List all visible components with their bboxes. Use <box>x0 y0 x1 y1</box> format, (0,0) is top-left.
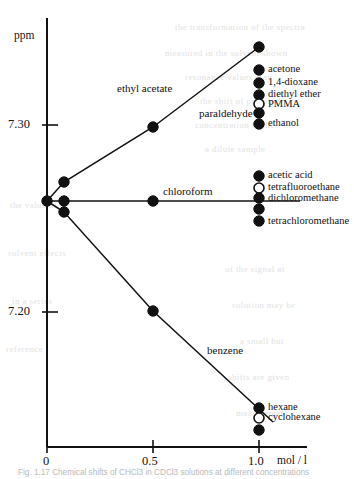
series-label-ethyl-acetate: ethyl acetate <box>117 83 172 94</box>
point-label-acetone: acetone <box>268 64 300 75</box>
x-tick-label-1-0: 1.0 <box>248 455 264 468</box>
point-label-ethanol: ethanol <box>268 118 299 129</box>
x-tick-label-0-5: 0.5 <box>142 455 158 468</box>
endpoint-marker-dichloromethane <box>254 193 264 203</box>
y-tick-label-7-20: 7.20 <box>8 305 30 318</box>
data-point-chloroform <box>59 196 69 206</box>
endpoint-marker-paraldehyde <box>254 108 264 118</box>
x-axis-unit-label: mol / l <box>277 455 307 467</box>
series-label-benzene: benzene <box>207 345 243 356</box>
endpoint-marker-ethanol <box>254 119 264 129</box>
data-point-benzene <box>59 207 69 217</box>
point-label-acetic-acid: acetic acid <box>268 170 313 181</box>
endpoint-marker-tetrafluoroethane <box>254 183 264 193</box>
chart-plot-area <box>0 0 354 479</box>
point-label-cyclohexane: cyclohexane <box>268 412 320 423</box>
y-axis-unit-label: ppm <box>14 30 34 42</box>
endpoint-marker-unlabeled <box>254 204 264 214</box>
data-point-ethyl-acetate <box>254 42 264 52</box>
point-label-tetrachloromethane: tetrachloromethane <box>268 216 349 227</box>
y-tick-label-7-30: 7.30 <box>8 118 30 131</box>
figure-container: the transformation of the spectra measur… <box>0 0 354 479</box>
endpoint-marker-acetone <box>254 65 264 75</box>
endpoint-marker-1-4-dioxane <box>254 78 264 88</box>
data-point-ethyl-acetate <box>42 196 52 206</box>
data-point-chloroform <box>148 196 158 206</box>
endpoint-marker-tetrachloromethane <box>254 216 264 226</box>
series-label-chloroform: chloroform <box>163 186 212 197</box>
data-point-benzene <box>148 306 158 316</box>
point-label-pmma: PMMA <box>268 99 300 110</box>
series-line-benzene <box>47 201 273 422</box>
endpoint-marker-acetic-acid <box>254 171 264 181</box>
series-label-paraldehyde: paraldehyde <box>199 108 253 119</box>
endpoint-marker-hexane <box>254 403 264 413</box>
point-label-tetrafluoroethane: tetrafluoroethane <box>268 182 340 193</box>
endpoint-marker-cyclohexane <box>254 413 264 423</box>
x-tick-label-0: 0 <box>43 455 49 468</box>
data-point-ethyl-acetate <box>59 177 69 187</box>
data-point-ethyl-acetate <box>148 122 158 132</box>
figure-caption: Fig. 1.17 Chemical shifts of CHCl3 in CD… <box>18 468 348 477</box>
endpoint-marker-unlabeled <box>254 425 264 435</box>
point-label-1-4-dioxane: 1,4-dioxane <box>268 77 318 88</box>
point-label-dichloromethane: dichloromethane <box>268 193 339 204</box>
